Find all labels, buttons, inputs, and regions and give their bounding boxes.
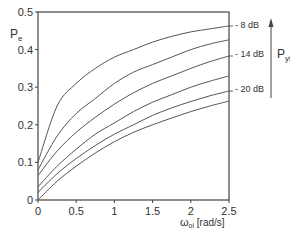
y-tick-label: 0.3: [18, 81, 33, 93]
x-tick-label: 0: [35, 205, 41, 217]
x-tick-label: 2: [188, 205, 194, 217]
x-tick-label: 1.5: [145, 205, 160, 217]
ticks: 00.10.20.30.40.500.511.522.5: [18, 6, 237, 217]
x-axis-label: ωoi [rad/s]: [180, 216, 225, 229]
y-tick-label: 0.2: [18, 119, 33, 131]
y-tick-label: 0.4: [18, 44, 33, 56]
curve-6: [38, 101, 229, 200]
plot-border: [38, 12, 229, 200]
x-tick-label: 1: [111, 205, 117, 217]
pyi-label: Pyi: [277, 47, 290, 63]
annotation-8db: - 8 dB: [235, 20, 259, 30]
pyi-arrow-icon: [269, 18, 274, 98]
annotation-20db: - 20 dB: [235, 84, 264, 94]
y-tick-label: 0.5: [18, 6, 33, 18]
plot-frame: [38, 12, 229, 200]
y-tick-label: 0.1: [18, 156, 33, 168]
x-tick-label: 2.5: [221, 205, 236, 217]
y-axis-label: Pe: [10, 27, 23, 43]
curves: [38, 26, 229, 200]
annotation-14db: - 14 dB: [235, 49, 264, 59]
curve-2: [38, 40, 229, 170]
y-tick-label: 0: [27, 194, 33, 206]
x-tick-label: 0.5: [69, 205, 84, 217]
chart: 00.10.20.30.40.500.511.522.5 Pe ωoi [rad…: [0, 0, 290, 235]
